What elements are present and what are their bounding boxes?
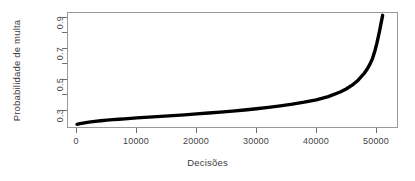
x-tick-mark xyxy=(256,128,257,133)
x-tick-label-20000: 20000 xyxy=(183,136,209,146)
x-tick-label-50000: 50000 xyxy=(363,136,389,146)
x-tick-label-30000: 30000 xyxy=(243,136,269,146)
y-tick-label-07: 0.7 xyxy=(55,47,65,60)
x-tick-mark xyxy=(76,128,77,133)
x-tick-label-40000: 40000 xyxy=(303,136,329,146)
chart-figure: Probabilidade de multa 0.9 0.7 0.5 0.3 0… xyxy=(0,0,415,181)
y-tick-label-09: 0.9 xyxy=(55,16,65,29)
plot-area xyxy=(67,12,398,128)
y-tick-label-03: 0.3 xyxy=(55,109,65,122)
x-axis-title: Decisões xyxy=(0,157,415,168)
x-tick-mark xyxy=(316,128,317,133)
x-tick-mark xyxy=(136,128,137,133)
y-axis: 0.9 0.7 0.5 0.3 xyxy=(0,0,67,181)
y-tick-label-05: 0.5 xyxy=(55,78,65,91)
x-tick-mark xyxy=(376,128,377,133)
data-curve xyxy=(68,13,397,127)
x-tick-label-0: 0 xyxy=(73,136,78,146)
x-tick-mark xyxy=(196,128,197,133)
x-tick-label-10000: 10000 xyxy=(123,136,149,146)
